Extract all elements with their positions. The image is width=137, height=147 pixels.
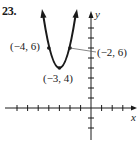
point-vertex [58, 66, 62, 70]
curve-arrow-right-icon [73, 9, 79, 18]
x-axis-arrow-icon [131, 106, 137, 111]
leader-line [70, 48, 96, 52]
y-axis-arrow-icon [89, 11, 94, 18]
x-axis-label: x [130, 111, 136, 123]
graph: x y (−4, 6) (−3, 4) (−2, 6) [0, 0, 137, 147]
label-vertex: (−3, 4) [43, 72, 73, 85]
point-neg4-6 [47, 46, 51, 50]
label-point-neg2-6: (−2, 6) [97, 46, 127, 59]
parabola-curve [41, 9, 79, 68]
label-point-neg4-6: (−4, 6) [10, 40, 40, 53]
y-axis: y [88, 8, 100, 140]
curve-arrow-left-icon [41, 9, 47, 18]
y-axis-label: y [94, 8, 100, 20]
x-axis: x [5, 105, 137, 123]
